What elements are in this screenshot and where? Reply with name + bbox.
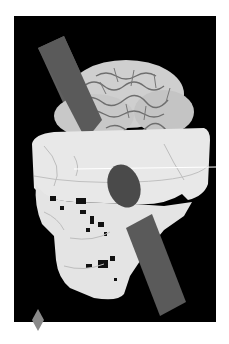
image-panel [14,16,216,322]
skull-rod-illustration [14,16,216,322]
marker-diamond-icon [32,309,44,331]
